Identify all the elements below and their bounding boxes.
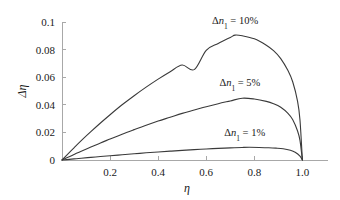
x-tick-label: 0.8 xyxy=(247,166,261,178)
y-tick-label: 0.02 xyxy=(36,126,55,138)
y-tick-label: 0.04 xyxy=(36,99,56,111)
tick-marks-group xyxy=(62,22,302,160)
data-curves-group xyxy=(62,35,302,160)
y-tick-label: 0.06 xyxy=(36,71,56,83)
y-tick-label: 0.1 xyxy=(41,16,55,28)
data-curve-0 xyxy=(62,35,302,160)
chart-canvas: 00.020.040.060.080.1 0.20.40.60.81.0 Δn1… xyxy=(0,0,340,200)
curve-annotation-label: Δn1 = 5% xyxy=(219,77,260,93)
y-axis-tick-labels: 00.020.040.060.080.1 xyxy=(36,16,56,166)
curve-annotations-group: Δn1 = 10%Δn1 = 5%Δn1 = 1% xyxy=(212,15,265,142)
x-tick-label: 0.4 xyxy=(151,166,165,178)
curve-annotation-label: Δn1 = 1% xyxy=(224,127,265,143)
x-tick-label: 1.0 xyxy=(296,166,310,178)
y-tick-label: 0 xyxy=(50,154,56,166)
x-tick-label: 0.2 xyxy=(103,166,117,178)
x-tick-label: 0.6 xyxy=(199,166,213,178)
x-axis-title: η xyxy=(184,181,190,195)
data-curve-2 xyxy=(62,147,302,160)
curve-annotation-0: Δn1 = 10% xyxy=(212,15,258,31)
y-axis-title: Δη xyxy=(15,84,29,98)
y-tick-label: 0.08 xyxy=(36,44,56,56)
curve-annotation-label: Δn1 = 10% xyxy=(212,15,258,31)
chart-figure: 00.020.040.060.080.1 0.20.40.60.81.0 Δn1… xyxy=(0,0,340,200)
x-axis-tick-labels: 0.20.40.60.81.0 xyxy=(103,166,310,178)
curve-annotation-2: Δn1 = 1% xyxy=(224,127,265,143)
axes-group xyxy=(62,22,328,160)
curve-annotation-1: Δn1 = 5% xyxy=(219,77,260,93)
